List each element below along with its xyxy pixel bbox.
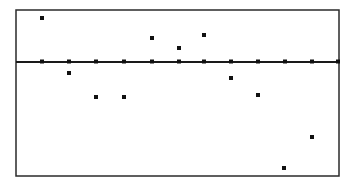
axis-tick-mark [67,60,71,64]
axis-tick-mark [94,60,98,64]
data-point [256,93,260,97]
calculator-plot-screen [0,0,353,189]
plot-frame [16,10,339,176]
data-point [310,135,314,139]
axis-tick-mark [256,60,260,64]
axis-tick-mark [336,60,340,64]
axis-tick-mark [202,60,206,64]
data-point [122,95,126,99]
data-point [40,16,44,20]
data-point [94,95,98,99]
data-point [177,46,181,50]
axis-tick-mark [229,60,233,64]
data-point [282,166,286,170]
axis-tick-mark [177,60,181,64]
axis-tick-mark [283,60,287,64]
axis-tick-mark [40,60,44,64]
data-point [229,76,233,80]
axis-tick-mark [122,60,126,64]
data-point [150,36,154,40]
data-point [67,71,71,75]
axis-tick-mark [310,60,314,64]
scatter-points [40,16,314,170]
axis-tick-mark [150,60,154,64]
data-point [202,33,206,37]
